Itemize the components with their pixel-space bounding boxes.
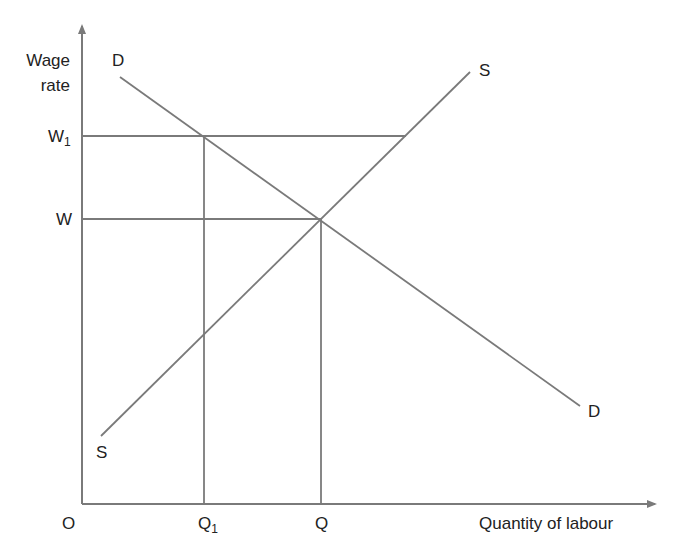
demand-start-label: D	[112, 52, 124, 69]
w1-label-sub: 1	[64, 135, 71, 149]
w1-label: W1	[48, 128, 71, 148]
demand-curve	[120, 77, 580, 406]
w-label: W	[56, 211, 72, 228]
supply-end-label: S	[479, 62, 490, 79]
w1-label-base: W	[48, 127, 64, 146]
diagram-canvas	[0, 0, 673, 557]
y-axis-label-line1: Wage	[20, 52, 70, 69]
w-label-base: W	[56, 210, 72, 229]
q1-label: Q1	[198, 515, 218, 535]
demand-end-label: D	[588, 403, 600, 420]
y-axis-label-line2: rate	[20, 77, 70, 94]
q1-label-sub: 1	[211, 522, 218, 536]
q-label: Q	[315, 515, 328, 532]
supply-start-label: S	[96, 444, 107, 461]
origin-label: O	[62, 515, 75, 532]
q1-label-base: Q	[198, 514, 211, 533]
x-axis-label: Quantity of labour	[479, 515, 613, 532]
q-label-base: Q	[315, 514, 328, 533]
supply-curve	[101, 72, 470, 436]
